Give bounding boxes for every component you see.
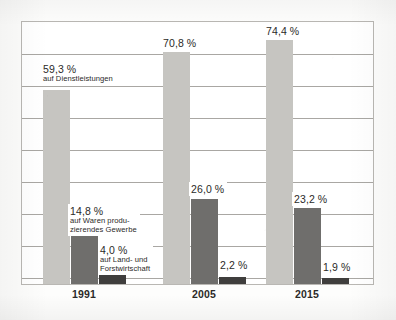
label-2005-agriculture: 2,2 % bbox=[218, 258, 250, 272]
bar-2015-services[interactable] bbox=[266, 40, 293, 284]
label-1991-industry: 14,8 % auf Waren produ- zierendes Gewerb… bbox=[68, 204, 140, 236]
plot-area: 59,3 % auf Dienstleistungen 14,8 % auf W… bbox=[22, 22, 373, 284]
bar-1991-industry[interactable] bbox=[71, 236, 98, 284]
value-text: 26,0 % bbox=[191, 183, 224, 195]
x-tick-2005: 2005 bbox=[192, 288, 216, 300]
label-2015-services: 74,4 % bbox=[264, 24, 302, 38]
value-text: 70,8 % bbox=[163, 37, 196, 49]
bar-2005-services[interactable] bbox=[163, 52, 190, 284]
bar-2015-agriculture[interactable] bbox=[322, 278, 349, 284]
value-text: 23,2 % bbox=[294, 193, 327, 205]
value-text: 2,2 % bbox=[220, 259, 247, 271]
chart-page: 59,3 % auf Dienstleistungen 14,8 % auf W… bbox=[0, 0, 396, 320]
x-axis: 1991 2005 2015 bbox=[22, 286, 373, 308]
label-2005-industry: 26,0 % bbox=[189, 182, 227, 196]
label-2005-services: 70,8 % bbox=[161, 36, 199, 50]
label-2015-agriculture: 1,9 % bbox=[321, 260, 353, 274]
desc-text: auf Dienstleistungen bbox=[43, 75, 113, 84]
desc-text: Forstwirtschaft bbox=[100, 265, 150, 274]
label-1991-services: 59,3 % auf Dienstleistungen bbox=[41, 62, 116, 85]
value-text: 1,9 % bbox=[323, 261, 350, 273]
bar-2005-industry[interactable] bbox=[191, 199, 218, 284]
bar-2005-agriculture[interactable] bbox=[219, 277, 246, 284]
x-tick-1991: 1991 bbox=[72, 288, 96, 300]
label-2015-industry: 23,2 % bbox=[292, 192, 330, 206]
value-text: 74,4 % bbox=[266, 25, 299, 37]
bar-2015-industry[interactable] bbox=[294, 208, 321, 284]
label-1991-agriculture: 4,0 % auf Land- und Forstwirtschaft bbox=[98, 243, 153, 275]
bar-1991-services[interactable] bbox=[43, 90, 70, 284]
desc-text: zierendes Gewerbe bbox=[70, 226, 137, 235]
x-tick-2015: 2015 bbox=[295, 288, 319, 300]
